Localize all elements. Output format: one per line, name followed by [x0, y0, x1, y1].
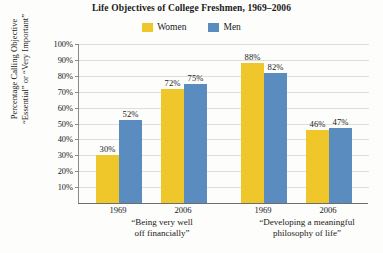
bar: 72%	[161, 89, 184, 203]
group-caption: “Being very welloff financially”	[131, 217, 192, 239]
y-axis-tick	[75, 124, 79, 125]
bar: 82%	[264, 73, 287, 203]
plot-area: 100%90%80%70%60%50%40%30%20%10%30%52%72%…	[78, 44, 368, 203]
y-axis-tick-label: 20%	[58, 167, 73, 176]
gridline	[79, 60, 369, 61]
gridline	[79, 44, 369, 45]
bar-value-label: 82%	[268, 62, 284, 72]
y-axis-tick	[75, 60, 79, 61]
bar: 47%	[329, 128, 352, 203]
group-caption-line: “Being very well	[131, 217, 192, 228]
y-axis-tick	[75, 187, 79, 188]
y-axis-tick-label: 100%	[53, 40, 73, 49]
bar-value-label: 88%	[245, 52, 261, 62]
y-axis-tick-label: 80%	[58, 71, 73, 80]
y-axis-tick-label: 60%	[58, 103, 73, 112]
y-axis-tick	[75, 44, 79, 45]
chart-title: Life Objectives of College Freshmen, 196…	[0, 3, 383, 13]
y-axis-tick-label: 50%	[58, 119, 73, 128]
y-axis-tick	[75, 155, 79, 156]
bar: 46%	[306, 130, 329, 203]
legend-swatch-men	[208, 23, 219, 32]
y-axis-tick	[75, 171, 79, 172]
bar: 30%	[96, 155, 119, 203]
gridline	[79, 76, 369, 77]
y-axis-tick-label: 90%	[58, 55, 73, 64]
group-caption-line: “Developing a meaningful	[259, 217, 354, 228]
y-axis-tick	[75, 76, 79, 77]
bar-value-label: 46%	[310, 119, 326, 129]
y-axis-tick-label: 10%	[58, 183, 73, 192]
y-axis-label-line-1: Percentage Calling Objective	[9, 0, 20, 149]
bar-value-label: 47%	[333, 117, 349, 127]
y-axis-tick	[75, 108, 79, 109]
legend-item-men: Men	[208, 22, 240, 32]
x-axis-tick-label: 1969	[254, 205, 271, 215]
bar-value-label: 30%	[100, 144, 116, 154]
y-axis-tick	[75, 139, 79, 140]
x-axis-tick-label: 2006	[174, 205, 191, 215]
bar-chart: Life Objectives of College Freshmen, 196…	[0, 0, 383, 253]
group-caption-line: philosophy of life”	[259, 228, 354, 239]
x-axis-tick-label: 1969	[109, 205, 126, 215]
legend-item-women: Women	[142, 22, 186, 32]
group-caption-line: off financially”	[131, 228, 192, 239]
bar-value-label: 52%	[123, 109, 139, 119]
bar: 75%	[184, 84, 207, 203]
gridline	[79, 92, 369, 93]
group-caption: “Developing a meaningfulphilosophy of li…	[259, 217, 354, 239]
y-axis-tick	[75, 92, 79, 93]
y-axis-tick-label: 40%	[58, 135, 73, 144]
chart-legend: Women Men	[0, 22, 383, 32]
legend-swatch-women	[142, 23, 153, 32]
x-axis-tick-label: 2006	[319, 205, 336, 215]
bar-value-label: 75%	[188, 73, 204, 83]
bar: 52%	[119, 120, 142, 203]
y-axis-tick-label: 30%	[58, 151, 73, 160]
legend-label-men: Men	[223, 22, 240, 32]
y-axis-label: Percentage Calling Objective “Essential”…	[9, 0, 35, 149]
bar: 88%	[241, 63, 264, 203]
y-axis-label-line-2: “Essential” or “Very Important”	[20, 0, 31, 149]
bar-value-label: 72%	[165, 78, 181, 88]
x-axis-line	[78, 203, 368, 204]
y-axis-tick-label: 70%	[58, 87, 73, 96]
legend-label-women: Women	[157, 22, 186, 32]
